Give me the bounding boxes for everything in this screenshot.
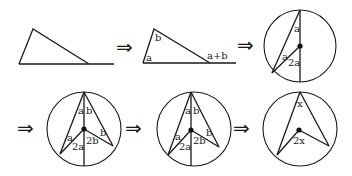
label-central-right: 2b [193, 135, 206, 146]
implies-arrow-1: ⇒ [116, 35, 133, 59]
panel-circle-general: x 2x [263, 92, 337, 166]
implies-arrow-5: ⇒ [233, 116, 250, 140]
triangle-sides [19, 29, 89, 64]
label-top-left-angle: a [78, 105, 84, 116]
panel-triangle-exterior-angle: b a a+b [143, 29, 236, 63]
label-exterior-angle: a+b [207, 50, 228, 61]
panel-triangle-plain [19, 29, 114, 64]
label-central-left: 2a [72, 141, 84, 152]
panel-circle-diameter-case: a a 2a [264, 10, 336, 82]
label-central-angle: 2a [288, 57, 300, 68]
label-top-left-angle: a [185, 105, 191, 116]
label-right-angle: b [100, 127, 106, 138]
label-inscribed-angle: x [297, 98, 303, 109]
label-central-left: 2a [179, 141, 191, 152]
implies-arrow-2: ⇒ [237, 33, 254, 57]
label-right-angle: b [206, 127, 212, 138]
center-point [81, 126, 86, 131]
center-point [188, 127, 193, 132]
label-top-angle: a [294, 23, 300, 34]
center-point [297, 43, 302, 48]
implies-arrow-4: ⇒ [125, 116, 142, 140]
panel-circle-split-case-2: a b a b 2a 2b [157, 92, 231, 166]
triangle-sides [143, 29, 210, 63]
label-top-right-angle: b [193, 105, 199, 116]
label-base-angle: a [146, 52, 152, 63]
label-central-angle: 2x [293, 135, 305, 146]
implies-arrow-3: ⇒ [17, 116, 34, 140]
inscribed-angle-proof-diagram: ⇒ b a a+b ⇒ a a 2a ⇒ a b a b 2a 2b ⇒ [0, 0, 352, 176]
panel-circle-split-case-1: a b a b 2a 2b [47, 92, 121, 166]
label-central-right: 2b [86, 135, 99, 146]
center-point [296, 127, 301, 132]
label-apex-angle: b [155, 32, 161, 43]
label-top-right-angle: b [86, 105, 92, 116]
